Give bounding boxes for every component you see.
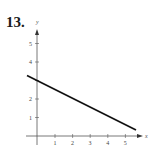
x-tick-label: 4 [106,140,109,146]
y-axis-arrow-icon [35,29,39,35]
y-axis-label: y [35,19,39,25]
x-axis-label: x [144,133,148,139]
y-tick-label: 4 [29,59,32,65]
x-tick-label: 1 [54,140,57,146]
y-tick-label: 1 [29,115,32,121]
line-graph: x y 1 2 3 4 5 1 2 4 5 [0,0,153,155]
x-tick-label: 5 [124,140,127,146]
x-axis-arrow-icon [137,134,143,138]
x-tick-label: 2 [71,140,74,146]
y-tick-label: 5 [29,41,32,47]
x-axis: x [26,133,148,139]
y-tick-label: 2 [29,96,32,102]
x-tick-label: 3 [89,140,92,146]
data-line [27,76,136,131]
